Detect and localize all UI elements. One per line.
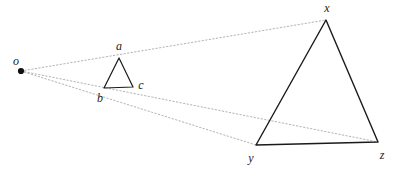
geometry-diagram: o a b c x y z xyxy=(0,0,397,173)
point-o-dot xyxy=(18,68,24,74)
large-triangle-xyz xyxy=(256,20,378,145)
projection-rays-group xyxy=(21,20,378,145)
small-triangle-abc xyxy=(104,58,133,88)
center-point-o-group xyxy=(18,68,24,74)
ray-o-a-x xyxy=(21,20,326,71)
point-label-b: b xyxy=(97,92,103,104)
diagram-canvas xyxy=(0,0,397,173)
point-label-c: c xyxy=(138,79,143,91)
point-label-z: z xyxy=(380,149,385,161)
point-label-o: o xyxy=(13,55,19,67)
triangle-abc-outline xyxy=(104,58,133,88)
point-label-x: x xyxy=(324,2,329,14)
triangle-xyz-outline xyxy=(256,20,378,145)
point-label-y: y xyxy=(248,152,253,164)
ray-o-c-z xyxy=(21,71,378,142)
point-label-a: a xyxy=(116,40,122,52)
